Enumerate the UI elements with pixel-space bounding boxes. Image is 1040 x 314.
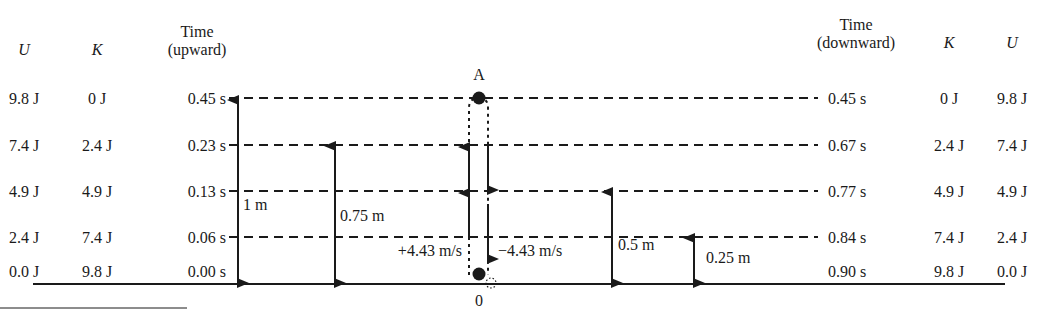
time-down-value: 0.90 s [828,263,866,280]
time-down-value: 0.45 s [828,90,866,107]
time-up-value: 0.06 s [188,229,226,246]
time-up-value: 0.45 s [188,90,226,107]
energy-diagram: U K Time (upward) Time (downward) K U 9.… [0,0,1040,314]
u-right-value: 2.4 J [997,229,1027,246]
trajectory-up [469,98,479,275]
header-time-down-2: (downward) [817,34,895,52]
u-right-value: 9.8 J [997,90,1027,107]
ball-top [473,92,486,105]
header-u-left: U [18,41,31,58]
time-down-value: 0.77 s [828,183,866,200]
header-time-up-2: (upward) [168,41,227,59]
point-label-a: A [473,66,485,83]
velocity-down-label: −4.43 m/s [498,242,562,259]
k-left-value: 4.9 J [82,183,112,200]
k-right-value: 9.8 J [934,263,964,280]
header-time-up-1: Time [180,23,213,40]
u-left-value: 9.8 J [9,90,39,107]
point-label-0: 0 [475,292,483,309]
header-time-down-1: Time [839,16,872,33]
height-label-075m: 0.75 m [340,207,385,224]
time-up-value: 0.23 s [188,137,226,154]
time-up-value: 0.13 s [188,183,226,200]
header-k-right: K [943,34,956,51]
k-right-value: 0 J [940,90,958,107]
time-up-value: 0.00 s [188,263,226,280]
ball-bottom [473,268,486,281]
time-down-value: 0.84 s [828,229,866,246]
u-left-value: 7.4 J [9,137,39,154]
k-left-value: 7.4 J [82,229,112,246]
trajectory-down [479,98,488,275]
header-u-right: U [1006,34,1019,51]
velocity-up-label: +4.43 m/s [398,242,462,259]
u-right-value: 7.4 J [997,137,1027,154]
k-right-value: 2.4 J [934,137,964,154]
time-down-value: 0.67 s [828,137,866,154]
k-left-value: 0 J [88,90,106,107]
u-right-value: 0.0 J [997,263,1027,280]
k-left-value: 2.4 J [82,137,112,154]
height-label-1m: 1 m [243,196,268,213]
u-left-value: 0.0 J [9,263,39,280]
u-left-value: 2.4 J [9,229,39,246]
header-k-left: K [91,41,104,58]
k-right-value: 4.9 J [934,183,964,200]
height-label-025m: 0.25 m [706,249,751,266]
k-left-value: 9.8 J [82,263,112,280]
k-right-value: 7.4 J [934,229,964,246]
u-right-value: 4.9 J [997,183,1027,200]
height-label-05m: 0.5 m [618,236,655,253]
u-left-value: 4.9 J [9,183,39,200]
level-lines [229,98,818,237]
